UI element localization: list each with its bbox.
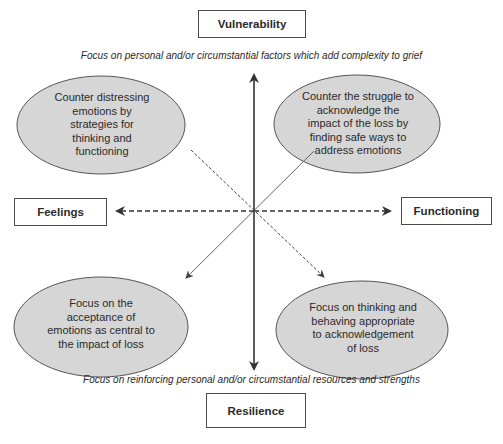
resilience-label: Resilience (228, 405, 285, 417)
vulnerability-box: Vulnerability (198, 10, 306, 38)
diagonal-dashed-arrow (191, 150, 324, 277)
quadrant-bottom-left-text: Focus on the acceptance of emotions as c… (43, 301, 159, 347)
grief-model-diagram: Vulnerability Feelings Functioning Resil… (0, 0, 503, 444)
top-caption: Focus on personal and/or circumstantial … (0, 50, 503, 61)
functioning-box: Functioning (401, 197, 492, 225)
vulnerability-label: Vulnerability (218, 18, 287, 30)
quadrant-bottom-right-text: Focus on thinking and behaving appropria… (307, 305, 419, 351)
bottom-caption: Focus on reinforcing personal and/or cir… (0, 374, 503, 385)
feelings-box: Feelings (14, 198, 107, 226)
functioning-label: Functioning (414, 205, 480, 217)
resilience-box: Resilience (206, 393, 306, 428)
quadrant-top-right-text: Counter the struggle to acknowledge the … (302, 91, 414, 157)
diagonal-solid-arrow (186, 151, 314, 278)
feelings-label: Feelings (37, 206, 84, 218)
quadrant-top-left-text: Counter distressing emotions by strategi… (52, 98, 152, 152)
